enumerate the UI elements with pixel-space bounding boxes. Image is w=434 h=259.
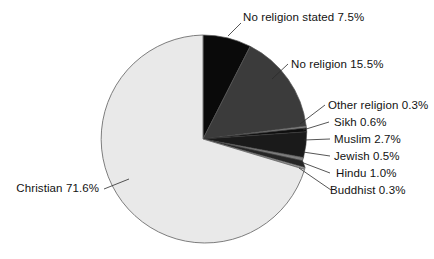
leader-line-sikh (303, 122, 329, 130)
leader-line-jewish (303, 152, 330, 156)
slice-label-no-religion: No religion 15.5% (291, 58, 383, 71)
slice-label-jewish: Jewish 0.5% (334, 150, 400, 163)
pie-slices (101, 35, 307, 243)
leader-line-no-religion-stated (228, 23, 241, 36)
leader-line-muslim (304, 139, 330, 140)
slice-label-muslim: Muslim 2.7% (334, 133, 401, 146)
pie-chart-canvas (0, 0, 434, 259)
slice-label-christian: Christian 71.6% (0, 182, 99, 195)
slice-label-buddhist: Buddhist 0.3% (330, 184, 405, 197)
slice-label-sikh: Sikh 0.6% (334, 116, 387, 129)
slice-label-other-religion: Other religion 0.3% (328, 99, 428, 112)
pie-chart-figure: No religion stated 7.5% No religion 15.5… (0, 0, 434, 259)
slice-label-hindu: Hindu 1.0% (336, 167, 396, 180)
slice-label-no-religion-stated: No religion stated 7.5% (243, 11, 364, 24)
